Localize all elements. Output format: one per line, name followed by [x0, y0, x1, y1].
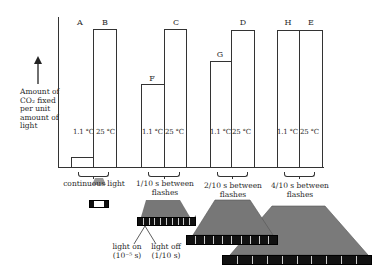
light-off-label: light off (1/10 s)	[144, 242, 188, 260]
temp-label-h: 1.1 °C	[277, 128, 298, 136]
note-line: (1/10 s)	[144, 251, 188, 260]
strip-cell	[327, 256, 342, 264]
strip-cell	[253, 256, 268, 264]
group-label-line: flashes	[266, 190, 334, 199]
temp-label-c: 25 °C	[165, 128, 184, 136]
strip-cell	[223, 256, 238, 264]
bar-letter-g: G	[209, 50, 231, 59]
brace-tick	[299, 176, 300, 179]
group-label-1-10: 1/10 s between flashes	[131, 179, 199, 197]
brace-tick	[232, 176, 233, 179]
x-axis	[58, 167, 324, 168]
bar-a	[71, 157, 94, 167]
strip-cell	[260, 236, 269, 244]
temp-label-b: 25 °C	[96, 128, 115, 136]
flash-strip-2-10	[186, 235, 278, 245]
flash-strip-4-10	[222, 255, 372, 265]
temp-label-f: 1.1 °C	[142, 128, 163, 136]
bar-letter-e: E	[300, 18, 322, 27]
arrowhead-icon	[34, 56, 42, 64]
bar-letter-a: A	[69, 18, 91, 27]
bar-letter-d: D	[232, 18, 254, 27]
trapezoid-1-10	[141, 200, 190, 217]
ylabel-line: light	[20, 122, 60, 131]
strip-cell	[283, 256, 298, 264]
strip-cell	[187, 236, 196, 244]
strip-cell	[312, 256, 327, 264]
group-label-4-10: 4/10 s between flashes	[266, 181, 334, 199]
group-label-line: flashes	[199, 190, 267, 199]
temp-label-d: 25 °C	[232, 128, 251, 136]
group-label-line: 2/10 s between	[199, 181, 267, 190]
strip-cell	[190, 218, 195, 225]
strip-cell	[357, 256, 371, 264]
strip-cell	[238, 256, 253, 264]
strip-cell	[242, 236, 251, 244]
group-label-line: continuous light	[58, 179, 130, 188]
note-line: (10⁻⁵ s)	[105, 251, 149, 260]
bar-c	[164, 29, 187, 167]
strip-cell	[196, 236, 205, 244]
trapezoid-2-10	[193, 200, 273, 235]
note-line: light on	[105, 242, 149, 251]
bar-g	[210, 61, 232, 167]
group-label-continuous: continuous light	[58, 179, 130, 188]
light-on-label: light on (10⁻⁵ s)	[105, 242, 149, 260]
bar-e	[299, 30, 323, 167]
strip-cell	[251, 236, 260, 244]
bar-letter-b: B	[94, 18, 116, 27]
group-label-line: 1/10 s between	[131, 179, 199, 188]
bar-f	[141, 84, 165, 167]
y-axis-label: Amount of CO₂ fixed per unit amount of l…	[20, 88, 60, 131]
y-axis	[58, 17, 59, 167]
group-label-line: 4/10 s between	[266, 181, 334, 190]
bar-letter-f: F	[141, 74, 163, 83]
flash-strip-1-10	[137, 217, 196, 226]
strip-cell	[232, 236, 241, 244]
temp-label-e: 25 °C	[300, 128, 319, 136]
strip-cell	[223, 236, 232, 244]
bar-d	[231, 30, 255, 167]
bar-letter-h: H	[277, 18, 299, 27]
strip-cell	[269, 236, 277, 244]
strip-cell	[342, 256, 357, 264]
note-line: light off	[144, 242, 188, 251]
strip-cell	[205, 236, 214, 244]
bar-b	[93, 29, 117, 167]
group-label-2-10: 2/10 s between flashes	[199, 181, 267, 199]
group-label-line: flashes	[131, 188, 199, 197]
temp-label-a: 1.1 °C	[73, 128, 94, 136]
strip-cell	[268, 256, 283, 264]
bar-h	[277, 30, 300, 167]
strip-cell	[214, 236, 223, 244]
bar-letter-c: C	[165, 18, 187, 27]
strip-cell	[298, 256, 313, 264]
continuous-light-strip	[89, 200, 109, 208]
temp-label-g: 1.1 °C	[210, 128, 231, 136]
